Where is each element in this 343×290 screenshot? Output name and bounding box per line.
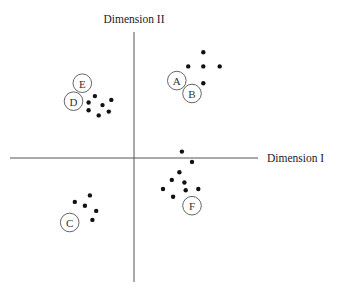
dimension-ii-label: Dimension II: [103, 13, 164, 25]
data-point: [88, 193, 92, 197]
data-point: [201, 64, 205, 68]
data-point: [94, 209, 98, 213]
data-point: [186, 64, 190, 68]
brand-marker-d: D: [64, 92, 83, 111]
data-point: [177, 170, 181, 174]
data-point: [86, 108, 90, 112]
data-point: [97, 113, 101, 117]
data-point: [218, 64, 222, 68]
brand-marker-f: F: [183, 196, 202, 215]
data-point: [184, 188, 188, 192]
data-point: [93, 94, 97, 98]
data-point: [182, 180, 186, 184]
data-point: [180, 149, 184, 153]
data-point: [90, 218, 94, 222]
brand-marker-label: C: [66, 217, 73, 229]
brand-marker-label: B: [188, 88, 195, 100]
data-point: [73, 200, 77, 204]
data-point: [201, 50, 205, 54]
data-point: [109, 98, 113, 102]
data-point: [107, 109, 111, 113]
data-point: [171, 195, 175, 199]
data-point: [190, 160, 194, 164]
brand-marker-e: E: [73, 74, 92, 93]
brand-marker-a: A: [168, 71, 187, 90]
perceptual-map: Dimension I Dimension II ABEDFC: [0, 0, 343, 290]
scatter-marks: ABEDFC: [60, 50, 222, 232]
data-point: [83, 204, 87, 208]
brand-marker-c: C: [60, 213, 79, 232]
brand-marker-label: E: [79, 78, 86, 90]
brand-marker-label: F: [189, 200, 195, 212]
data-point: [86, 100, 90, 104]
data-point: [201, 81, 205, 85]
brand-marker-b: B: [183, 84, 202, 103]
data-point: [161, 187, 165, 191]
brand-marker-label: A: [173, 75, 181, 87]
data-point: [196, 187, 200, 191]
dimension-i-label: Dimension I: [267, 152, 324, 164]
brand-marker-label: D: [70, 96, 78, 108]
data-point: [170, 178, 174, 182]
data-point: [100, 103, 104, 107]
